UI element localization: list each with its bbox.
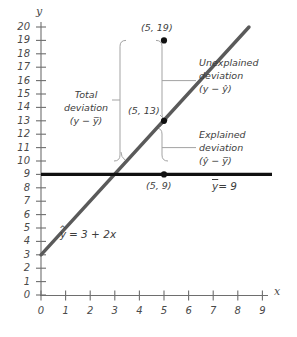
observed-point-label: (5, 19) (141, 22, 173, 33)
y-tick-label: 8 (12, 183, 30, 193)
x-tick-label: 1 (59, 306, 73, 316)
total-deviation-bracket (112, 40, 126, 161)
y-tick-label: 2 (12, 263, 30, 273)
y-tick-label: 1 (12, 277, 30, 287)
y-tick-label: 11 (12, 143, 30, 153)
unexplained-deviation-line1: Unexplained (199, 56, 258, 69)
y-tick-label: 20 (12, 22, 30, 32)
y-tick-label: 3 (12, 250, 30, 260)
y-tick-label: 10 (12, 156, 30, 166)
y-tick-label: 15 (12, 89, 30, 99)
regression-equation-rest: = 3 + 2x (69, 228, 116, 240)
total-deviation-line3: (y − y̅) (60, 114, 112, 127)
y-tick-label: 7 (12, 196, 30, 206)
x-tick-label: 7 (206, 306, 220, 316)
explained-deviation-annotation: Explained deviation (ŷ − y̅) (199, 128, 246, 167)
x-tick-label: 6 (182, 306, 196, 316)
y-tick-label: 4 (12, 236, 30, 246)
observed-point (161, 37, 167, 43)
total-deviation-annotation: Total deviation (y − y̅) (60, 88, 112, 127)
mean-line-label-rest: = 9 (218, 180, 237, 192)
y-axis-label: y (36, 5, 42, 18)
y-tick-label: 12 (12, 129, 30, 139)
x-tick-label: 9 (255, 306, 269, 316)
explained-deviation-line3: (ŷ − y̅) (199, 154, 246, 167)
y-tick-label: 19 (12, 35, 30, 45)
y-tick-label: 13 (12, 116, 30, 126)
y-tick-label: 14 (12, 102, 30, 112)
regression-deviation-figure: y x 20 19 18 17 16 15 14 13 12 11 10 9 8… (0, 0, 297, 337)
explained-deviation-line2: deviation (199, 141, 246, 154)
x-tick-label: 3 (108, 306, 122, 316)
x-tick-label: 2 (83, 306, 97, 316)
x-tick-label: 0 (34, 306, 48, 316)
plot-canvas (0, 0, 297, 337)
mean-point (161, 171, 167, 177)
x-tick-label: 4 (132, 306, 146, 316)
x-tick-label: 5 (157, 306, 171, 316)
y-tick-label: 16 (12, 76, 30, 86)
y-tick-label: 5 (12, 223, 30, 233)
predicted-point-label: (5, 13) (128, 105, 160, 116)
total-deviation-line2: deviation (60, 101, 112, 114)
unexplained-deviation-line2: deviation (199, 69, 258, 82)
y-tick-label: 0 (12, 290, 30, 300)
mean-line-label: y= 9 (212, 180, 237, 192)
mean-point-label: (5, 9) (146, 180, 172, 191)
regression-equation-label: y^= 3 + 2x (60, 228, 116, 240)
y-tick-label: 9 (12, 169, 30, 179)
total-deviation-line1: Total (60, 88, 112, 101)
explained-deviation-line1: Explained (199, 128, 246, 141)
x-axis-label: x (274, 285, 280, 298)
y-tick-label: 6 (12, 210, 30, 220)
unexplained-deviation-line3: (y − ŷ) (199, 82, 258, 95)
y-tick-label: 18 (12, 49, 30, 59)
explained-deviation-bracket (156, 128, 196, 161)
mean-point-tick (121, 152, 125, 160)
predicted-point (161, 118, 167, 124)
unexplained-deviation-annotation: Unexplained deviation (y − ŷ) (199, 56, 258, 95)
y-tick-label: 17 (12, 62, 30, 72)
x-tick-label: 8 (231, 306, 245, 316)
